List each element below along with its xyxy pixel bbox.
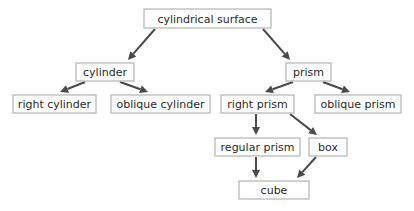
edge-line: [290, 114, 311, 130]
node-cylindrical-surface: cylindrical surface: [144, 9, 271, 28]
edge-prism-to-right-prism: [265, 82, 293, 93]
node-box: box: [309, 138, 347, 156]
edge-cylinder-to-right-cylinder: [60, 82, 85, 93]
edge-cylindrical-surface-to-cylinder: [128, 29, 155, 60]
edge-cylinder-to-oblique-cylinder: [120, 82, 148, 93]
node-oblique-prism: oblique prism: [315, 95, 401, 113]
edge-regular-prism-to-cube: [252, 157, 260, 178]
node-label: box: [318, 141, 338, 154]
node-label: cylindrical surface: [157, 13, 257, 26]
edge-box-to-cube: [297, 157, 316, 178]
edge-cylindrical-surface-to-prism: [263, 29, 290, 60]
node-label: right prism: [227, 98, 287, 111]
node-label: cube: [261, 184, 288, 197]
edge-right-prism-to-box: [290, 114, 317, 135]
edge-line: [323, 82, 342, 89]
node-right-prism: right prism: [221, 95, 294, 113]
node-right-cylinder: right cylinder: [13, 95, 96, 113]
hierarchy-diagram: cylindrical surfacecylinderprismright cy…: [0, 0, 414, 211]
node-cylinder: cylinder: [76, 63, 134, 81]
edge-prism-to-oblique-prism: [323, 82, 350, 93]
node-oblique-cylinder: oblique cylinder: [111, 95, 210, 113]
node-cube: cube: [239, 181, 309, 199]
node-label: right cylinder: [18, 98, 92, 111]
edge-right-prism-to-regular-prism: [252, 114, 260, 135]
node-label: oblique prism: [320, 98, 395, 111]
node-label: oblique cylinder: [117, 98, 205, 111]
edge-line: [302, 157, 316, 172]
edge-line: [263, 29, 285, 54]
edge-line: [133, 29, 155, 54]
edge-line: [120, 82, 140, 89]
node-label: regular prism: [221, 141, 295, 154]
edge-line: [273, 82, 293, 89]
nodes-layer: cylindrical surfacecylinderprismright cy…: [13, 9, 401, 199]
arrowhead-icon: [252, 170, 260, 178]
edge-line: [67, 82, 85, 89]
node-label: prism: [293, 66, 324, 79]
node-regular-prism: regular prism: [215, 138, 300, 156]
node-label: cylinder: [83, 66, 127, 79]
node-prism: prism: [286, 63, 331, 81]
arrowhead-icon: [252, 127, 260, 135]
